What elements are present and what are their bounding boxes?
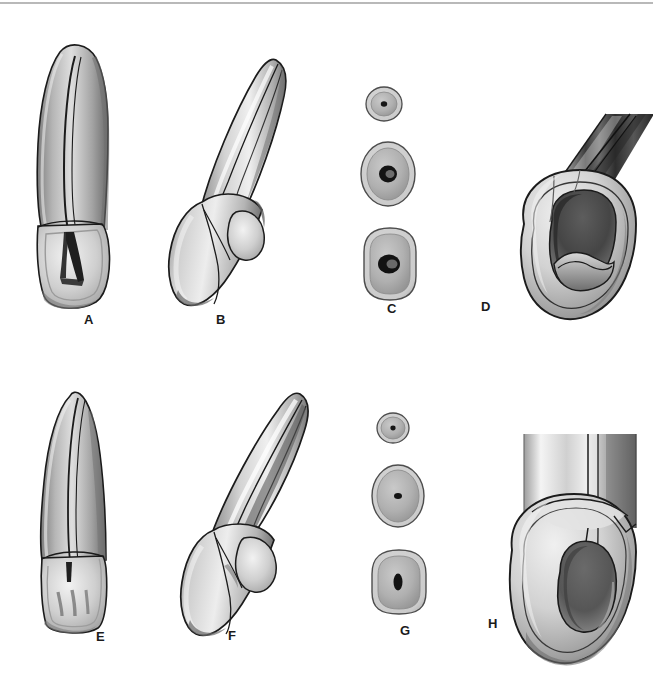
- cross-section-cervical: [372, 550, 426, 614]
- panel-label-e: E: [96, 630, 105, 643]
- dental-anatomy-figure: A B: [0, 0, 653, 693]
- panel-e-illustration: [22, 386, 152, 636]
- panel-b-illustration: [158, 52, 308, 320]
- panel-label-f: F: [228, 629, 236, 642]
- cross-section-apical: [377, 413, 409, 443]
- panel-label-c: C: [387, 302, 397, 315]
- panel-label-b: B: [216, 313, 226, 326]
- panel-d-illustration: [488, 112, 653, 324]
- panel-label-d: D: [481, 300, 491, 313]
- panel-label-a: A: [84, 313, 94, 326]
- panel-a-illustration: [12, 34, 152, 314]
- panel-h-illustration: [486, 432, 653, 684]
- top-border-rule: [0, 2, 653, 4]
- panel-g-cross-sections: [364, 410, 454, 615]
- panel-label-h: H: [488, 617, 498, 630]
- cross-section-apical: [366, 87, 402, 121]
- cross-section-middle: [361, 142, 415, 206]
- panel-c-cross-sections: [352, 84, 442, 302]
- panel-label-g: G: [400, 624, 411, 637]
- panel-f-illustration: [168, 388, 318, 638]
- cross-section-middle: [372, 465, 424, 527]
- cross-section-cervical: [364, 228, 416, 300]
